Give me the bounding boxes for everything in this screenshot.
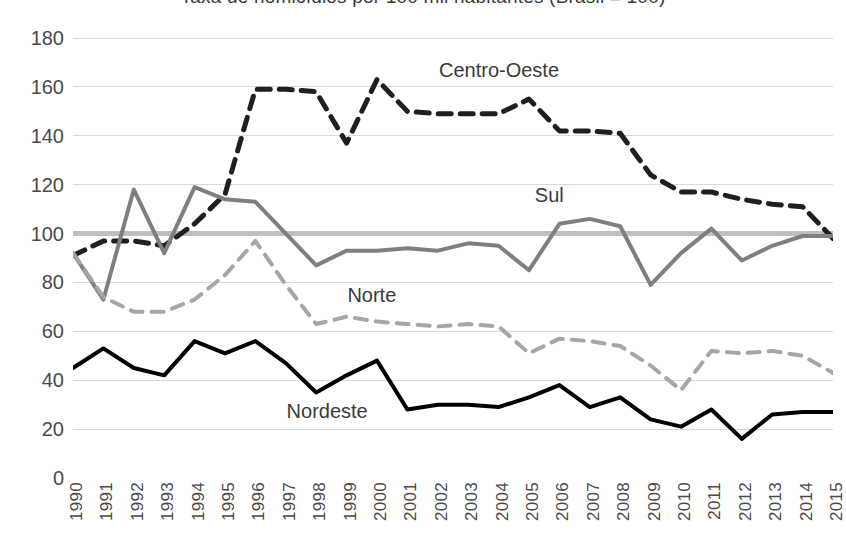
x-axis-tick: 2006 [553,482,573,521]
series-label-norte: Norte [347,284,396,307]
x-axis-tick: 1990 [67,482,87,521]
x-axis-tick: 1992 [128,482,148,521]
y-axis-tick: 100 [31,222,64,245]
x-axis-tick: 2001 [401,482,421,521]
x-axis-tick: 1994 [189,482,209,521]
x-axis-tick: 2003 [462,482,482,521]
series-label-sul: Sul [535,184,564,207]
y-axis-labels: 020406080100120140160180 [0,38,64,478]
y-axis-tick: 180 [31,27,64,50]
x-axis-tick: 2000 [371,482,391,521]
x-axis-tick: 2004 [493,482,513,521]
series-line-norte [73,241,833,390]
x-axis-tick: 1995 [219,482,239,521]
series-label-centro-oeste: Centro-Oeste [439,59,559,82]
y-axis-tick: 60 [42,320,64,343]
x-axis-tick: 1996 [249,482,269,521]
x-axis-tick: 1999 [341,482,361,521]
series-line-nordeste [73,341,833,439]
y-axis-tick: 20 [42,418,64,441]
x-axis-tick: 2011 [705,482,725,520]
plot-area [73,38,833,478]
x-axis-tick: 1991 [97,482,117,521]
x-axis-tick: 2013 [766,482,786,521]
x-axis-tick: 2015 [827,482,846,521]
x-axis-tick: 1997 [280,482,300,521]
x-axis-tick: 2005 [523,482,543,521]
x-axis-tick: 2014 [797,482,817,521]
series-line-centro-oeste [73,80,833,256]
x-axis-tick: 1998 [310,482,330,521]
chart-title: Taxa de homicídios por 100 mil habitante… [0,0,846,8]
x-axis-tick: 2007 [584,482,604,521]
y-axis-tick: 140 [31,124,64,147]
y-axis-tick: 40 [42,369,64,392]
x-axis-tick: 2008 [614,482,634,521]
series-label-nordeste: Nordeste [287,400,368,423]
y-axis-tick: 0 [53,467,64,490]
chart-svg [73,38,833,478]
x-axis-tick: 2009 [645,482,665,521]
y-axis-tick: 80 [42,271,64,294]
x-axis-tick: 2010 [675,482,695,521]
x-axis-tick: 2012 [736,482,756,521]
x-axis-tick: 2002 [432,482,452,521]
chart-container: Taxa de homicídios por 100 mil habitante… [0,0,846,559]
y-axis-tick: 120 [31,173,64,196]
y-axis-tick: 160 [31,75,64,98]
x-axis-tick: 1993 [158,482,178,521]
x-axis-labels: 1990199119921993199419951996199719981999… [73,478,833,559]
